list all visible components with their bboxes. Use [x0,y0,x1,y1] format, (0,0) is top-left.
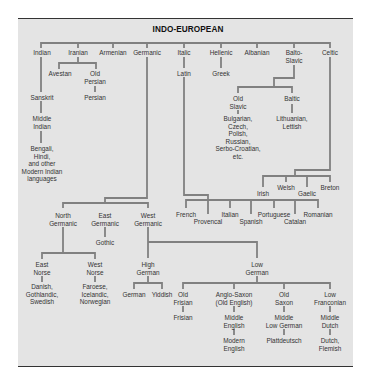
node-line: Danish, [26,283,58,291]
node-line: Old [173,291,192,299]
node-line: German [136,269,159,277]
node-north-germanic: NorthGermanic [49,212,77,227]
node-line: German [245,269,268,277]
node-greek: Greek [212,70,229,78]
node-line: Frisian [173,299,192,307]
node-italian: Italian [221,211,238,219]
node-line: Persian [84,78,106,86]
node-indian: Indian [33,49,50,57]
node-line: Low German [266,322,303,330]
node-line: Low [314,291,346,299]
node-line: English [223,345,245,353]
node-line: West [86,261,103,269]
node-breton: Breton [321,184,340,192]
node-line: Flemish [319,345,341,353]
node-west-germanic: WestGermanic [134,212,162,227]
node-line: Germanic [134,220,162,228]
node-line: Czech, [215,123,260,131]
node-irish: Irish [257,190,269,198]
node-east-norse: EastNorse [33,261,50,276]
node-line: High [136,261,159,269]
node-line: Germanic [49,220,77,228]
node-line: Bulgarian, [215,115,260,123]
node-modern-indian: Bengali,Hindi,and otherModern Indianlang… [22,145,63,183]
node-high-german: HighGerman [136,261,159,276]
node-armenian: Armenian [99,49,126,57]
node-old-frisian: OldFrisian [173,291,192,306]
node-gaelic: Gaelic [298,190,316,198]
node-line: Middle [321,314,340,322]
node-hellenic: Hellenic [210,49,233,57]
node-line: Middle [33,115,52,123]
node-celtic: Celtic [322,49,338,57]
node-line: Middle [224,314,245,322]
node-line: West [134,212,162,220]
node-line: Norwegian [80,298,111,306]
node-anglo-saxon: Anglo-Saxon(Old English) [216,291,253,306]
node-line: Gothlandic, [26,291,58,299]
node-line: Polish, [215,130,260,138]
node-line: and other [22,160,63,168]
node-baltic: Baltic [284,95,300,103]
node-persian: Persian [84,94,106,102]
root-title: INDO-EUROPEAN [153,25,224,34]
node-line: Modern [223,337,245,345]
node-line: Slavic [229,103,246,111]
node-line: Faroese, [80,283,111,291]
node-line: Russian, [215,138,260,146]
node-albanian: Albanian [245,49,270,57]
node-line: North [49,212,77,220]
node-old-persian: OldPersian [84,70,106,85]
node-line: Dutch, [319,337,341,345]
node-line: Anglo-Saxon [216,291,253,299]
node-line: Icelandic, [80,291,111,299]
node-east-germanic: EastGermanic [91,212,119,227]
node-line: Slavic [285,57,302,65]
node-middle-low-german: MiddleLow German [266,314,303,329]
node-line: Serbo-Croatian, [215,145,260,153]
node-germanic: Germanic [133,49,161,57]
node-slavic-langs: Bulgarian,Czech,Polish,Russian,Serbo-Cro… [215,115,260,161]
node-middle-dutch: MiddleDutch [321,314,340,329]
node-iranian: Iranian [68,49,88,57]
node-modern-english: ModernEnglish [223,337,245,352]
node-line: East [33,261,50,269]
node-line: Low [245,261,268,269]
node-sanskrit: Sanskrit [30,94,53,102]
node-low-german: LowGerman [245,261,268,276]
node-line: East [91,212,119,220]
node-line: Old [229,95,246,103]
node-west-norse: WestNorse [86,261,103,276]
node-old-slavic: OldSlavic [229,95,246,110]
node-east-norse-langs: Danish,Gothlandic,Swedish [26,283,58,306]
node-line: Norse [86,269,103,277]
node-middle-indian: MiddleIndian [33,115,52,130]
node-old-saxon: OldSaxon [275,291,293,306]
node-line: Dutch [321,322,340,330]
node-line: Balto- [285,49,302,57]
node-line: Norse [33,269,50,277]
node-line: Hindi, [22,153,63,161]
node-line: (Old English) [216,299,253,307]
node-spanish: Spanish [239,218,262,226]
node-line: Lithuanian, [276,115,307,123]
node-line: Saxon [275,299,293,307]
node-line: Modern Indian [22,168,63,176]
node-catalan: Catalan [284,218,306,226]
node-line: Swedish [26,298,58,306]
node-line: etc. [215,153,260,161]
node-german: German [122,291,145,299]
node-line: Lettish [276,123,307,131]
node-balto-slavic: Balto-Slavic [285,49,302,64]
node-latin: Latin [177,70,191,78]
node-low-franconian: LowFranconian [314,291,346,306]
node-west-norse-langs: Faroese,Icelandic,Norwegian [80,283,111,306]
node-yiddish: Yiddish [152,291,173,299]
node-italic: Italic [177,49,190,57]
node-line: Middle [266,314,303,322]
node-line: Germanic [91,220,119,228]
node-dutch-flemish: Dutch,Flemish [319,337,341,352]
node-line: Bengali, [22,145,63,153]
node-line: Old [84,70,106,78]
node-provencal: Provencal [194,218,222,226]
